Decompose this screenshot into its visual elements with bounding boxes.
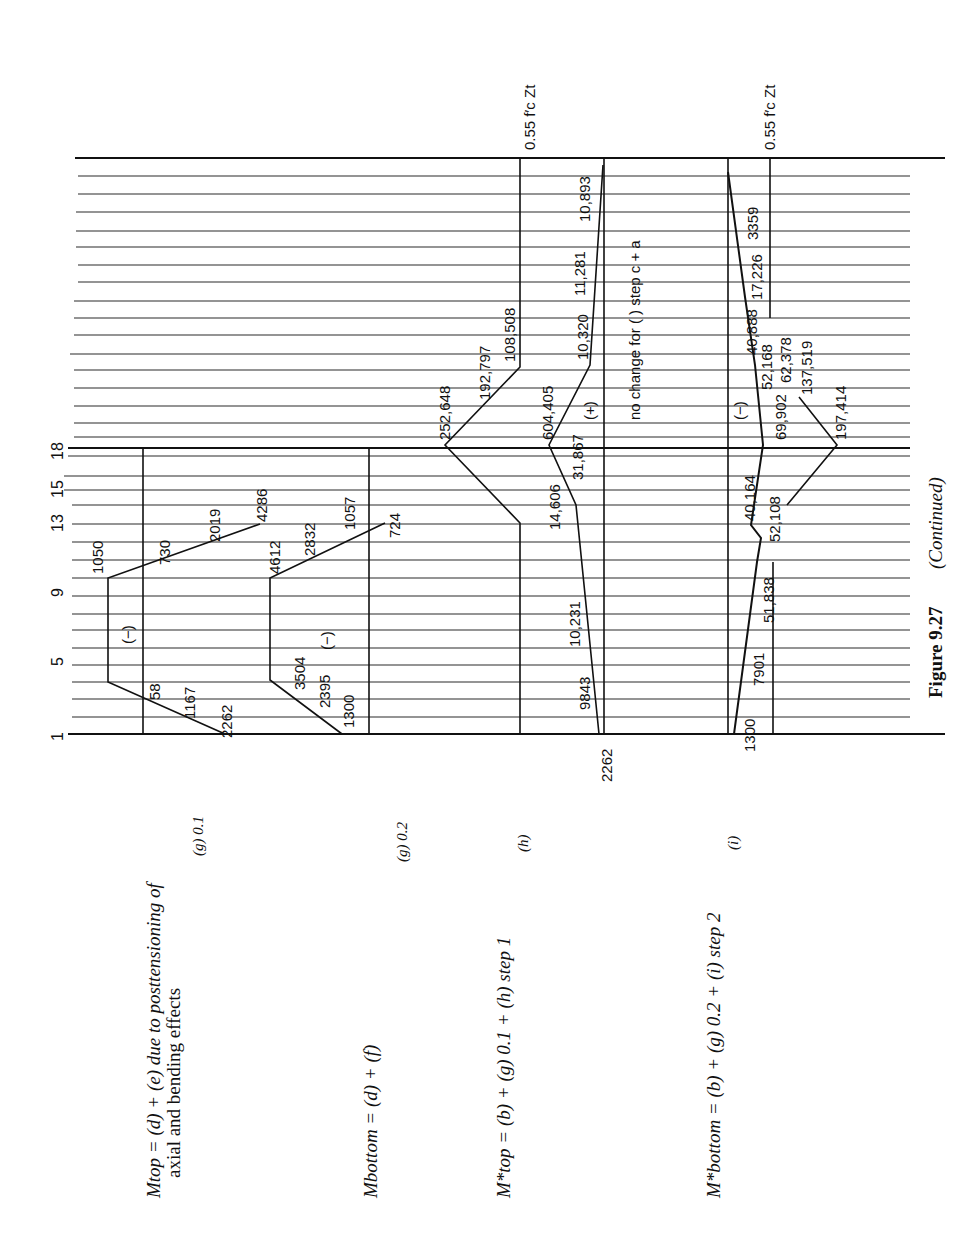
label-h: M*top = (b) + (g) 0.1 + (h) step 1 — [493, 937, 515, 1199]
tag-h: (h) — [515, 835, 532, 853]
label-i: M*bottom = (b) + (g) 0.2 + (i) step 2 — [703, 912, 725, 1199]
svg-text:40,164: 40,164 — [741, 475, 758, 521]
svg-text:2019: 2019 — [206, 509, 223, 542]
caption-note: (Continued) — [925, 477, 947, 569]
svg-text:10,320: 10,320 — [574, 314, 591, 360]
panel-labels: Mtop = (d) + (e) due to posttensioning o… — [143, 816, 742, 1199]
label-g02: Mbottom = (d) + (f) — [360, 1045, 382, 1199]
svg-text:9843: 9843 — [576, 677, 593, 710]
svg-text:2395: 2395 — [316, 675, 333, 708]
svg-text:1050: 1050 — [89, 541, 106, 574]
station-gridlines — [64, 158, 945, 734]
svg-text:3359: 3359 — [744, 207, 761, 240]
station-axis-labels: 1 5 9 13 15 18 — [49, 442, 66, 741]
svg-text:604,405: 604,405 — [539, 386, 556, 440]
svg-text:1300: 1300 — [340, 695, 357, 728]
caption-number: Figure 9.27 — [925, 606, 946, 698]
station-1: 1 — [49, 732, 66, 741]
svg-text:31,867: 31,867 — [569, 434, 586, 480]
svg-text:730: 730 — [156, 540, 173, 565]
svg-text:1057: 1057 — [341, 497, 358, 530]
sign-negative: (−) — [731, 401, 748, 420]
svg-text:11,281: 11,281 — [571, 251, 588, 296]
svg-text:197,414: 197,414 — [832, 386, 849, 440]
svg-text:58: 58 — [146, 683, 163, 700]
sign-negative: (−) — [318, 631, 335, 650]
svg-text:7901: 7901 — [750, 653, 767, 686]
svg-text:17,226: 17,226 — [748, 254, 765, 300]
svg-text:2832: 2832 — [301, 523, 318, 556]
svg-text:252,648: 252,648 — [436, 386, 453, 440]
svg-text:4612: 4612 — [266, 541, 283, 574]
figure-caption: Figure 9.27 (Continued) — [925, 477, 947, 698]
sign-positive: (+) — [581, 401, 598, 420]
svg-text:137,519: 137,519 — [798, 341, 815, 395]
figure-canvas: 1 5 9 13 15 18 1050 730 2019 4286 58 116… — [0, 0, 962, 1242]
svg-text:3504: 3504 — [291, 657, 308, 690]
svg-text:724: 724 — [386, 513, 403, 538]
svg-text:192,797: 192,797 — [476, 346, 493, 400]
svg-text:10,231: 10,231 — [566, 601, 583, 647]
svg-text:108,508: 108,508 — [501, 308, 518, 362]
label-g01-line2: axial and bending effects — [163, 988, 184, 1178]
label-g01-line1: Mtop = (d) + (e) due to posttensioning o… — [143, 880, 165, 1199]
no-change-note: no change for ( ) step c + a — [626, 240, 643, 420]
svg-text:14,606: 14,606 — [546, 484, 563, 530]
station-15: 15 — [49, 480, 66, 498]
tag-i: (i) — [725, 836, 742, 850]
svg-text:51,838: 51,838 — [760, 577, 777, 623]
svg-text:0.55 f′c Zt: 0.55 f′c Zt — [521, 84, 538, 150]
station-13: 13 — [49, 514, 66, 532]
svg-text:52,108: 52,108 — [766, 496, 783, 542]
sign-negative: (−) — [119, 625, 136, 644]
svg-text:2262: 2262 — [218, 705, 235, 738]
tag-g01: (g) 0.1 — [190, 816, 207, 856]
panel-g01-diagram: 1050 730 2019 4286 58 1167 2262 (−) — [89, 448, 270, 738]
svg-text:4286: 4286 — [253, 489, 270, 522]
station-18: 18 — [49, 442, 66, 460]
station-9: 9 — [49, 588, 66, 597]
svg-text:2262: 2262 — [598, 749, 615, 782]
station-5: 5 — [49, 657, 66, 666]
svg-text:1167: 1167 — [181, 687, 198, 719]
tag-g02: (g) 0.2 — [394, 822, 411, 862]
svg-text:69,902: 69,902 — [772, 394, 789, 440]
svg-text:1300: 1300 — [741, 719, 758, 752]
panel-g02-diagram: 4612 2832 1057 724 3504 2395 1300 (−) — [266, 448, 403, 734]
svg-text:62,378: 62,378 — [777, 337, 794, 383]
svg-text:10,893: 10,893 — [576, 176, 593, 222]
panel-h-diagram: 0.55 f′c Zt 252,648 192,797 108,508 604,… — [436, 84, 643, 782]
panel-i-diagram: 0.55 f′c Zt 3359 17,226 40,888 52,168 69… — [728, 84, 849, 752]
svg-text:0.55 f′c Zt: 0.55 f′c Zt — [761, 84, 778, 150]
svg-text:52,168: 52,168 — [758, 344, 775, 390]
